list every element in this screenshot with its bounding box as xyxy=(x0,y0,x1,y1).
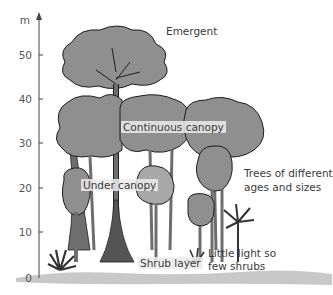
label-continuous-canopy: Continuous canopy xyxy=(121,121,226,133)
height-axis xyxy=(36,12,43,278)
axis-tick-30: 30 xyxy=(6,137,32,149)
label-trees-line1: Trees of different xyxy=(244,167,333,179)
label-emergent: Emergent xyxy=(166,25,217,37)
label-under-canopy: Under canopy xyxy=(81,179,158,191)
axis-tick-10: 10 xyxy=(6,226,32,238)
ground xyxy=(16,270,332,285)
axis-tick-20: 20 xyxy=(6,182,32,194)
axis-tick-50: 50 xyxy=(6,49,32,61)
label-little-light-line2: few shrubs xyxy=(208,260,265,272)
axis-tick-0: 0 xyxy=(6,272,32,284)
label-shrub-layer: Shrub layer xyxy=(138,257,203,269)
axis-unit: m xyxy=(4,14,30,26)
label-little-light-line1: Little light so xyxy=(208,247,276,259)
axis-tick-40: 40 xyxy=(6,93,32,105)
label-trees-line2: ages and sizes xyxy=(244,181,321,193)
